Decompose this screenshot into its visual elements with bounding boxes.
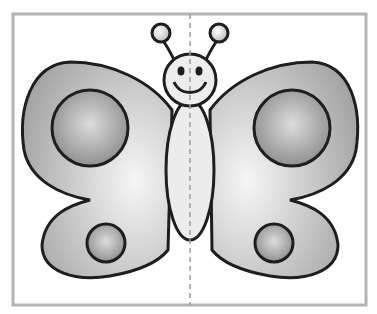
left-lower-spot — [87, 224, 125, 262]
left-eye — [178, 67, 185, 76]
right-eye — [196, 67, 203, 76]
left-antenna-bulb — [152, 24, 170, 42]
right-antenna-bulb — [210, 24, 228, 42]
butterfly-illustration — [0, 0, 377, 314]
right-upper-spot — [254, 90, 330, 166]
right-lower-spot — [255, 224, 293, 262]
left-upper-spot — [52, 90, 128, 166]
